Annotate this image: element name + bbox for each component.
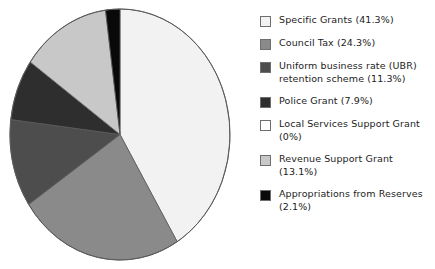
legend-item-label: Uniform business rate (UBR) retention sc… bbox=[279, 60, 417, 85]
chart-legend: Specific Grants (41.3%)Council Tax (24.3… bbox=[260, 14, 435, 223]
legend-item[interactable]: Police Grant (7.9%) bbox=[260, 95, 435, 108]
legend-item-label: Revenue Support Grant (13.1%) bbox=[279, 153, 393, 178]
legend-item-label: Local Services Support Grant (0%) bbox=[279, 118, 420, 143]
legend-item[interactable]: Appropriations from Reserves (2.1%) bbox=[260, 188, 435, 213]
legend-swatch-appropriations bbox=[260, 190, 271, 201]
pie-chart-svg bbox=[8, 7, 232, 262]
legend-swatch-council-tax bbox=[260, 39, 271, 50]
legend-item-label: Police Grant (7.9%) bbox=[279, 95, 373, 108]
legend-item-label: Council Tax (24.3%) bbox=[279, 37, 375, 50]
legend-item[interactable]: Uniform business rate (UBR) retention sc… bbox=[260, 60, 435, 85]
legend-item[interactable]: Revenue Support Grant (13.1%) bbox=[260, 153, 435, 178]
legend-swatch-ubr bbox=[260, 62, 271, 73]
legend-item[interactable]: Local Services Support Grant (0%) bbox=[260, 118, 435, 143]
legend-item[interactable]: Council Tax (24.3%) bbox=[260, 37, 435, 50]
pie-chart bbox=[8, 7, 232, 262]
legend-item-label: Appropriations from Reserves (2.1%) bbox=[279, 188, 423, 213]
legend-item[interactable]: Specific Grants (41.3%) bbox=[260, 14, 435, 27]
legend-swatch-local-services bbox=[260, 120, 271, 131]
legend-swatch-specific-grants bbox=[260, 16, 271, 27]
legend-swatch-police-grant bbox=[260, 97, 271, 108]
pie-slice-group bbox=[10, 9, 230, 260]
pie-chart-figure: Specific Grants (41.3%)Council Tax (24.3… bbox=[0, 0, 435, 269]
legend-item-label: Specific Grants (41.3%) bbox=[279, 14, 394, 27]
legend-swatch-revenue-support bbox=[260, 155, 271, 166]
